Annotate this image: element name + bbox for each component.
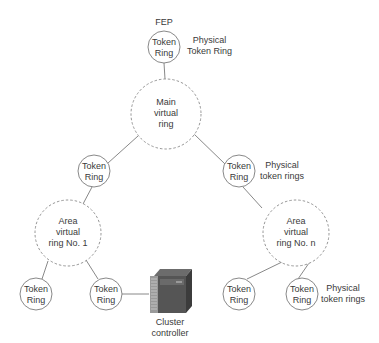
mid-right-token-ring-label: Token Ring: [221, 161, 257, 183]
bottom-token-ring-2-label: Token Ring: [88, 284, 124, 306]
cluster-controller-label: Cluster controller: [145, 317, 195, 339]
bottom-physical-token-rings-annotation: Physical token rings: [321, 283, 365, 305]
physical-token-ring-annotation: Physical Token Ring: [187, 35, 232, 57]
physical-token-rings-annotation: Physical token rings: [260, 160, 304, 182]
area-virtual-ring-n-label: Area virtual ring No. n: [264, 216, 328, 249]
cluster-controller-icon: [150, 269, 192, 313]
fep-label: FEP: [152, 17, 176, 28]
bottom-token-ring-1-label: Token Ring: [18, 284, 54, 306]
bottom-token-ring-4-label: Token Ring: [284, 284, 320, 306]
mid-left-token-ring-label: Token Ring: [76, 161, 112, 183]
main-virtual-ring-label: Main virtual ring: [140, 97, 192, 130]
area-virtual-ring-1-label: Area virtual ring No. 1: [36, 216, 100, 249]
fep-token-ring-label: Token Ring: [146, 37, 182, 59]
bottom-token-ring-3-label: Token Ring: [221, 284, 257, 306]
